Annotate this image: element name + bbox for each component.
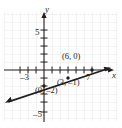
y-tick-label-5: 5 <box>35 28 40 37</box>
graph-canvas <box>0 0 122 128</box>
x-tick-label-neg3: –3 <box>20 73 29 82</box>
coordinate-plane-figure: y x –3 7 5 –5 (6, 0) (3, –1) (0, –2) <box>0 0 122 128</box>
x-axis-label: x <box>112 71 116 80</box>
x-tick-label-7: 7 <box>86 73 91 82</box>
point-label-3-neg1: (3, –1) <box>57 78 80 87</box>
point-label-0-neg2: (0, –2) <box>35 86 58 95</box>
point-label-6-0: (6, 0) <box>62 52 80 61</box>
y-tick-label-neg5: –5 <box>33 110 42 119</box>
grid-background <box>4 12 118 122</box>
y-axis-label: y <box>45 5 49 14</box>
